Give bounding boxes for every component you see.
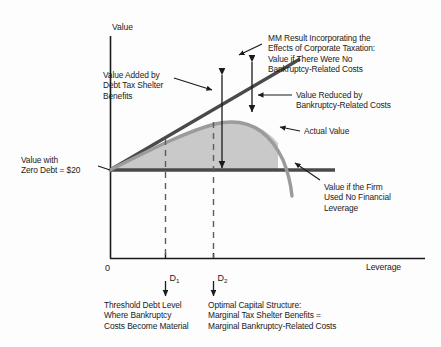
- mm-result-leader: [239, 44, 262, 55]
- tick-label-d2-subscript: 2: [224, 277, 227, 284]
- tick-label-d1: D1: [160, 263, 179, 297]
- annotation-value-added: Value Added by Debt Tax Shelter Benefits: [103, 70, 163, 101]
- origin-label: 0: [105, 263, 110, 273]
- annotation-value-reduced: Value Reduced by Bankruptcy-Related Cost…: [296, 90, 391, 111]
- annotation-mm-result: MM Result Incorporating the Effects of C…: [268, 33, 375, 74]
- zero-debt-leader: [98, 166, 110, 170]
- x-axis-label: Leverage: [366, 262, 401, 272]
- annotation-zero-debt: Value with Zero Debt = $20: [21, 155, 80, 176]
- tax-shelter-shaded-area: [110, 122, 278, 170]
- value-added-leader: [174, 78, 212, 90]
- y-axis-label: Value: [112, 22, 133, 32]
- annotation-actual-value: Actual Value: [304, 126, 349, 136]
- capital-structure-diagram: Value Leverage 0 D1 D2 MM Result Incorpo…: [0, 0, 441, 347]
- actual-value-leader: [280, 127, 300, 131]
- tick-label-d1-subscript: 1: [176, 277, 179, 284]
- annotation-no-leverage: Value if the Firm Used No Financial Leve…: [324, 182, 391, 213]
- annotation-optimal-note: Optimal Capital Structure: Marginal Tax …: [208, 300, 336, 331]
- annotation-threshold-note: Threshold Debt Level Where Bankruptcy Co…: [104, 300, 188, 331]
- tick-label-d2: D2: [208, 263, 227, 297]
